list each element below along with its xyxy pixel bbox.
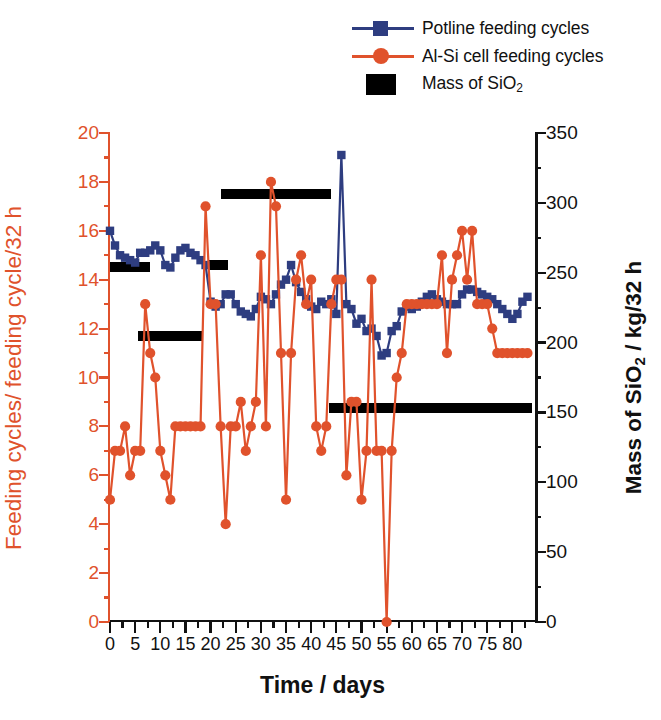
data-point-square (392, 322, 400, 330)
y-left-tick-label: 16 (78, 220, 99, 242)
data-point-circle (266, 177, 276, 187)
y-right-tick-label: 200 (546, 332, 578, 354)
x-tick (411, 622, 413, 633)
x-tick (335, 622, 337, 633)
y-left-tick-label: 8 (88, 415, 99, 437)
data-point-circle (452, 250, 462, 260)
x-tick (197, 622, 199, 628)
series-layer (110, 133, 535, 622)
data-point-circle (462, 275, 472, 285)
data-point-circle (351, 397, 361, 407)
x-tick (272, 622, 274, 628)
x-tick (524, 622, 526, 628)
x-tick-label: 70 (452, 634, 472, 655)
y-right-tick-label: 250 (546, 262, 578, 284)
square-marker-icon (352, 18, 414, 38)
data-point-circle (361, 446, 371, 456)
data-point-circle (482, 299, 492, 309)
y-right-tick (535, 202, 546, 204)
x-tick-label: 30 (251, 634, 271, 655)
data-point-circle (291, 275, 301, 285)
data-point-circle (261, 421, 271, 431)
data-point-circle (236, 397, 246, 407)
x-tick-label: 5 (130, 634, 140, 655)
legend-label-potline: Potline feeding cycles (414, 18, 589, 39)
y-left-tick-label: 14 (78, 269, 99, 291)
data-point-square (347, 305, 355, 313)
data-point-square (453, 300, 461, 308)
data-point-circle (447, 275, 457, 285)
data-point-circle (437, 250, 447, 260)
data-point-circle (356, 495, 366, 505)
data-point-circle (135, 446, 145, 456)
legend-label-mass: Mass of SiO2 (414, 73, 523, 95)
x-tick (159, 622, 161, 633)
data-point-square (513, 310, 521, 318)
x-tick-label: 50 (351, 634, 371, 655)
y-right-tick (535, 411, 546, 413)
x-tick (423, 622, 425, 628)
y-left-tick (99, 328, 110, 330)
data-point-square (282, 276, 290, 284)
data-point-square (357, 315, 365, 323)
chart-legend: Potline feeding cycles Al-Si cell feedin… (352, 14, 652, 98)
data-point-square (523, 293, 531, 301)
y-right-tick (535, 516, 541, 518)
x-tick-label: 75 (477, 634, 497, 655)
legend-item-alsi: Al-Si cell feeding cycles (352, 42, 652, 70)
data-point-circle (301, 299, 311, 309)
y-left-tick-label: 6 (88, 464, 99, 486)
data-point-circle (382, 617, 392, 627)
data-point-circle (432, 299, 442, 309)
legend-label-mass-sub: 2 (516, 81, 523, 95)
y-right-tick (535, 237, 541, 239)
x-tick (360, 622, 362, 633)
y-right-tick (535, 376, 541, 378)
y-left-tick (99, 279, 110, 281)
y-right-tick (535, 621, 546, 623)
x-tick-label: 60 (402, 634, 422, 655)
plot-area: 02468101214161820 050100150200250300350 … (110, 133, 535, 622)
x-tick-label: 25 (226, 634, 246, 655)
y-right-tick-label: 0 (546, 611, 557, 633)
data-point-circle (281, 495, 291, 505)
series-potline (106, 151, 532, 360)
data-point-circle (321, 421, 331, 431)
x-tick-label: 35 (276, 634, 296, 655)
data-point-circle (366, 275, 376, 285)
data-point-square (227, 290, 235, 298)
x-tick (298, 622, 300, 628)
data-point-circle (387, 446, 397, 456)
data-point-circle (155, 446, 165, 456)
x-tick-label: 45 (326, 634, 346, 655)
x-tick (247, 622, 249, 628)
legend-label-alsi: Al-Si cell feeding cycles (414, 46, 603, 67)
data-point-circle (105, 495, 115, 505)
x-tick-label: 55 (377, 634, 397, 655)
y-right-tick (535, 272, 546, 274)
x-tick (511, 622, 513, 633)
y-right-tick-label: 300 (546, 192, 578, 214)
data-point-circle (306, 275, 316, 285)
y-right-tick (535, 446, 541, 448)
y-right-tick-label: 350 (546, 122, 578, 144)
data-point-circle (211, 299, 221, 309)
chart-figure: Potline feeding cycles Al-Si cell feedin… (0, 0, 661, 720)
data-point-circle (246, 421, 256, 431)
x-tick (285, 622, 287, 633)
y-left-tick (99, 474, 110, 476)
data-point-circle (296, 250, 306, 260)
y-right-suffix: / kg/32 h (622, 261, 647, 357)
data-point-circle (397, 348, 407, 358)
x-tick (461, 622, 463, 633)
data-point-circle (377, 446, 387, 456)
data-point-circle (271, 201, 281, 211)
y-left-tick-label: 2 (88, 562, 99, 584)
x-tick (348, 622, 350, 628)
data-point-circle (251, 397, 261, 407)
data-point-circle (326, 299, 336, 309)
data-point-square (247, 312, 255, 320)
x-tick (373, 622, 375, 628)
data-point-square (287, 261, 295, 269)
x-tick-label: 15 (175, 634, 195, 655)
